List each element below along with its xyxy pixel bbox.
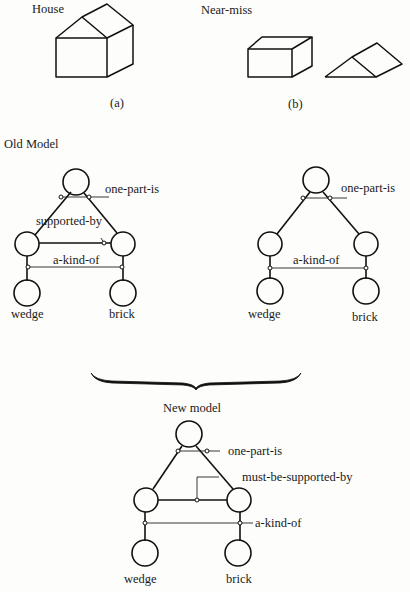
node-part-left <box>134 488 158 512</box>
house-roof-side <box>82 4 133 38</box>
one-part-is-label: one-part-is <box>228 444 282 458</box>
node-part-right <box>227 488 251 512</box>
a-kind-of-label: a-kind-of <box>255 516 302 530</box>
relation-dot <box>301 196 305 200</box>
must-be-supported-by-label: must-be-supported-by <box>242 470 353 484</box>
node-part-left <box>258 232 282 256</box>
node-house <box>63 169 89 195</box>
node-part-left <box>15 232 39 256</box>
near-miss-network: one-part-is a-kind-of wedge brick <box>248 167 395 324</box>
node-brick <box>225 540 251 566</box>
house-panel: House (a) <box>32 2 133 110</box>
one-part-is-label: one-part-is <box>341 181 395 195</box>
relation-dot <box>364 266 368 270</box>
near-miss-panel: Near-miss (b) <box>201 3 402 111</box>
house-drawing <box>56 4 133 77</box>
node-wedge <box>257 278 283 304</box>
brick-label: brick <box>352 310 378 324</box>
relation-dot <box>26 265 30 269</box>
old-model-title: Old Model <box>4 137 59 151</box>
relation-dot <box>238 521 242 525</box>
relation-dot <box>59 195 63 199</box>
wedge-label: wedge <box>248 307 281 321</box>
node-house <box>176 421 202 447</box>
a-kind-of-label: a-kind-of <box>293 253 340 267</box>
brick-drawing <box>248 37 312 77</box>
node-part-right <box>111 232 135 256</box>
wedge-front-face <box>325 57 376 77</box>
node-brick <box>110 280 136 306</box>
new-model-title: New model <box>163 401 221 415</box>
relation-dot <box>328 196 332 200</box>
brick-top-face <box>248 37 312 49</box>
brick-front-face <box>248 49 292 77</box>
node-wedge <box>132 540 158 566</box>
brick-label: brick <box>109 307 135 321</box>
a-kind-of-label: a-kind-of <box>53 253 100 267</box>
relation-dot <box>87 195 91 199</box>
relation-dot <box>195 498 199 502</box>
relation-dot <box>176 449 180 453</box>
wedge-label: wedge <box>124 572 157 586</box>
wedge-label: wedge <box>11 307 44 321</box>
house-roof-gable <box>56 17 107 38</box>
wedge-drawing <box>325 43 402 77</box>
supported-by-label: supported-by <box>36 214 103 228</box>
semantic-net-figure: House (a) Near-miss (b) Old Model <box>0 0 410 592</box>
wedge-slope-face <box>352 43 402 77</box>
one-part-is-label: one-part-is <box>105 182 159 196</box>
node-near-miss <box>303 167 329 193</box>
new-model-network: New model one-part-is must-be-supported-… <box>124 401 353 586</box>
relation-dot <box>143 521 147 525</box>
house-front-face <box>56 38 107 77</box>
brick-label: brick <box>226 572 252 586</box>
relation-dot <box>120 265 124 269</box>
relation-dot <box>268 266 272 270</box>
relation-dot <box>102 241 106 245</box>
near-miss-title: Near-miss <box>201 3 252 17</box>
relation-dot <box>205 449 209 453</box>
node-part-right <box>354 232 378 256</box>
old-model-network: Old Model one-part-is supported-by a-kin… <box>4 137 159 321</box>
node-brick <box>353 278 379 304</box>
house-title: House <box>32 2 64 16</box>
house-side-wall <box>107 25 133 77</box>
must-be-supported-by-connector <box>197 477 219 500</box>
merge-brace <box>91 373 301 390</box>
caption-a: (a) <box>110 96 124 110</box>
caption-b: (b) <box>288 97 303 111</box>
node-wedge <box>14 280 40 306</box>
